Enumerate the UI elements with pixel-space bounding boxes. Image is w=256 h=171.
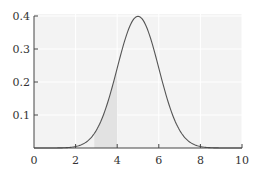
x-tick-label: 10 [235, 154, 249, 167]
y-tick-label: 0.2 [13, 76, 31, 89]
x-tick-label: 8 [197, 154, 204, 167]
normal-density-chart: 0246810 0.10.20.30.4 [0, 0, 256, 171]
x-tick-label: 2 [72, 154, 79, 167]
y-tick-label: 0.3 [13, 43, 31, 56]
x-tick-label: 4 [114, 154, 121, 167]
x-tick-label: 6 [155, 154, 162, 167]
plot-background [34, 14, 242, 148]
y-tick-label: 0.1 [13, 109, 31, 122]
x-tick-label: 0 [31, 154, 38, 167]
y-tick-label: 0.4 [13, 10, 31, 23]
